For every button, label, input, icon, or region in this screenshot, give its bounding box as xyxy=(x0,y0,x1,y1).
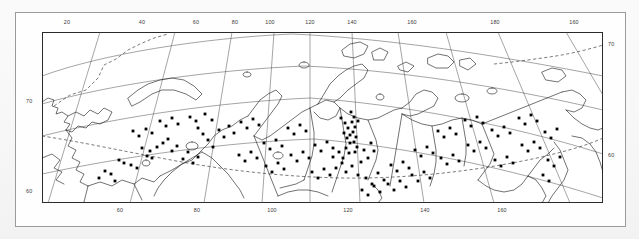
longitude-label-top-4: 100 xyxy=(265,19,275,25)
data-point xyxy=(467,144,470,147)
data-point xyxy=(437,130,440,133)
data-point xyxy=(98,177,101,180)
data-point xyxy=(212,146,215,149)
data-point xyxy=(446,163,449,166)
data-point xyxy=(332,147,335,150)
data-point xyxy=(351,165,354,168)
longitude-label-top-6: 140 xyxy=(347,19,357,25)
data-point xyxy=(349,142,352,145)
data-point xyxy=(373,185,376,188)
data-point xyxy=(408,167,411,170)
data-point xyxy=(473,150,476,153)
longitude-label-top-2: 60 xyxy=(193,19,199,25)
longitude-label-top-3: 80 xyxy=(232,19,238,25)
data-point xyxy=(305,130,308,133)
longitude-label-top-9: 160 xyxy=(569,19,579,25)
data-point xyxy=(332,156,335,159)
data-point xyxy=(283,168,286,171)
data-point xyxy=(365,177,368,180)
data-point xyxy=(479,141,482,144)
data-point xyxy=(414,149,417,152)
data-point xyxy=(455,133,458,136)
data-point xyxy=(361,189,364,192)
data-point xyxy=(349,134,352,137)
data-point xyxy=(476,116,479,119)
data-point xyxy=(346,137,349,140)
data-point xyxy=(354,151,357,154)
data-point xyxy=(299,124,302,127)
data-point xyxy=(258,124,261,127)
data-point xyxy=(192,162,195,165)
data-point xyxy=(497,135,500,138)
data-point xyxy=(360,161,363,164)
data-point xyxy=(429,177,432,180)
data-point xyxy=(482,122,485,125)
data-point xyxy=(521,144,524,147)
data-point xyxy=(207,139,210,142)
data-point xyxy=(197,156,200,159)
data-point xyxy=(345,171,348,174)
data-point xyxy=(151,132,154,135)
data-point xyxy=(317,177,320,180)
data-point xyxy=(373,150,376,153)
longitude-label-top-5: 120 xyxy=(305,19,315,25)
data-point xyxy=(367,157,370,160)
data-point xyxy=(228,125,231,128)
data-point xyxy=(233,132,236,135)
data-point xyxy=(411,174,414,177)
latitude-label-right-1: 60 xyxy=(608,152,614,158)
data-point xyxy=(189,116,192,119)
data-point xyxy=(536,120,539,123)
data-point xyxy=(533,141,536,144)
data-point xyxy=(323,168,326,171)
data-point xyxy=(338,151,341,154)
data-point xyxy=(218,129,221,132)
longitude-label-top-0: 20 xyxy=(64,19,70,25)
data-point xyxy=(500,165,503,168)
data-point xyxy=(357,174,360,177)
data-point xyxy=(353,116,356,119)
data-point xyxy=(353,141,356,144)
data-point xyxy=(269,148,272,151)
data-point xyxy=(311,171,314,174)
data-point xyxy=(308,157,311,160)
data-point xyxy=(352,131,355,134)
data-point xyxy=(348,152,351,155)
data-point xyxy=(553,165,556,168)
data-point xyxy=(383,179,386,182)
data-point xyxy=(485,147,488,150)
longitude-label-top-8: 180 xyxy=(490,19,500,25)
data-point xyxy=(195,120,198,123)
data-point xyxy=(162,142,165,145)
latitude-label-right-0: 70 xyxy=(608,41,614,47)
data-point xyxy=(159,120,162,123)
data-point xyxy=(370,142,373,145)
data-point xyxy=(393,189,396,192)
data-point xyxy=(145,128,148,131)
longitude-label-bottom-2: 100 xyxy=(267,207,277,213)
data-point xyxy=(539,147,542,150)
data-point xyxy=(114,180,117,183)
data-point xyxy=(509,132,512,135)
data-point xyxy=(343,132,346,135)
data-point xyxy=(136,167,139,170)
map-plate xyxy=(42,32,603,203)
data-point xyxy=(559,156,562,159)
longitude-label-bottom-1: 80 xyxy=(194,207,200,213)
data-point xyxy=(506,156,509,159)
data-point xyxy=(302,151,305,154)
data-point xyxy=(263,142,266,145)
data-point xyxy=(387,183,390,186)
data-point xyxy=(151,157,154,160)
data-point xyxy=(141,147,144,150)
longitude-label-bottom-0: 60 xyxy=(117,207,123,213)
data-point xyxy=(390,164,393,167)
data-point xyxy=(399,180,402,183)
data-point xyxy=(470,125,473,128)
data-point xyxy=(171,117,174,120)
data-point xyxy=(417,180,420,183)
data-point xyxy=(530,114,533,117)
data-point xyxy=(335,167,338,170)
data-point xyxy=(356,146,359,149)
data-point xyxy=(350,111,353,114)
